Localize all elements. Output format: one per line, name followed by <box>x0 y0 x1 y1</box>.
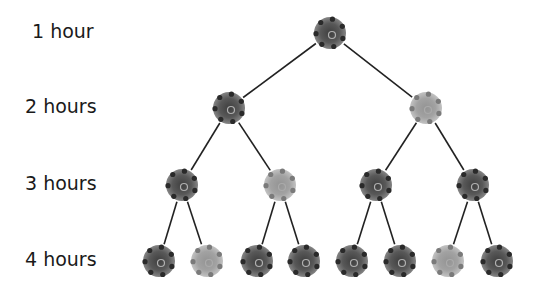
connector-line <box>187 202 201 245</box>
connector-line <box>344 44 412 97</box>
bacterium-cell-icon <box>480 245 513 277</box>
connector-line <box>386 123 417 170</box>
connector-line <box>357 202 370 244</box>
connector-line <box>478 202 491 244</box>
bacterium-cell-icon <box>142 245 175 277</box>
bacterium-cell-icon <box>456 169 489 201</box>
bacterium-cell-icon <box>383 245 416 277</box>
bacterium-cell-icon <box>431 245 464 277</box>
connector-lines <box>164 43 492 244</box>
connector-line <box>239 123 271 171</box>
bacterium-cell-icon <box>263 169 296 201</box>
connector-line <box>381 202 394 244</box>
connector-line <box>435 123 464 170</box>
bacterium-cell-icon <box>313 17 346 49</box>
bacterium-cell-icon <box>165 169 198 201</box>
connector-line <box>164 202 177 244</box>
bacterium-cell-icon <box>190 245 223 277</box>
division-tree <box>0 0 538 297</box>
connector-line <box>243 43 316 97</box>
bacterium-cell-icon <box>409 92 442 124</box>
bacterium-cell-icon <box>359 169 392 201</box>
bacterium-cell-icon <box>212 92 245 124</box>
connector-line <box>191 123 220 170</box>
bacterium-cell-icon <box>240 245 273 277</box>
connector-line <box>453 202 467 245</box>
bacterium-cell-icon <box>335 245 368 277</box>
connector-line <box>285 202 298 244</box>
connector-line <box>262 202 275 244</box>
bacterium-cell-icon <box>287 245 320 277</box>
cells <box>142 17 513 277</box>
